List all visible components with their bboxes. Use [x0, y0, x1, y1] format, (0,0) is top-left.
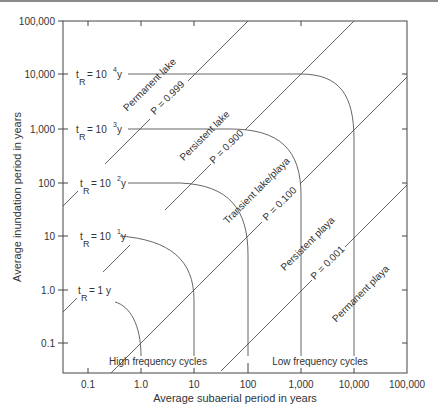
svg-text:R: R [83, 186, 90, 196]
p-label-0100: P = 0.100 [260, 184, 298, 222]
line-p-0900 [63, 21, 354, 312]
svg-text:y: y [121, 231, 126, 242]
svg-text:y: y [121, 178, 126, 189]
svg-text:R: R [79, 132, 86, 142]
low-frequency-label: Low frequency cycles [272, 356, 368, 367]
region-transient-lake-playa: Transient lake/playa [221, 155, 292, 226]
tr-label-1: t R = 1 y [78, 285, 111, 303]
x-tick-label: 100 [240, 379, 257, 390]
y-tick-label: 10,000 [24, 69, 55, 80]
svg-text:= 10: = 10 [87, 124, 107, 135]
x-tick-label: 1,000 [288, 379, 313, 390]
y-tick-label: 1,000 [30, 124, 55, 135]
svg-text:= 10: = 10 [91, 231, 111, 242]
tr-label-100: t R = 10 2 y [80, 175, 126, 196]
y-axis-title: Average inundation period in years [11, 112, 23, 282]
x-tick-label: 10,000 [339, 379, 370, 390]
svg-text:y: y [117, 124, 122, 135]
svg-text:= 10: = 10 [91, 178, 111, 189]
x-tick-label: 0.1 [81, 379, 95, 390]
line-p-0100 [111, 77, 407, 373]
x-axis-title: Average subaerial period in years [153, 392, 317, 404]
region-permanent-lake: Permanent lake [121, 56, 179, 114]
tr-label-1000: t R = 10 3 y [76, 121, 122, 142]
y-tick-label: 10 [44, 231, 56, 242]
tr-labels: t R = 10 4 y t R = 10 3 y t R = 10 2 y t… [76, 66, 126, 303]
x-tick-label: 100,000 [389, 379, 426, 390]
lake-playa-diagram: 100,000 10,000 1,000 100 10 1.0 0.1 0.1 … [0, 0, 438, 409]
region-permanent-playa: Permanent playa [330, 263, 392, 325]
svg-text:= 10: = 10 [87, 69, 107, 80]
y-tick-label: 1.0 [41, 285, 55, 296]
y-tick-label: 0.1 [41, 338, 55, 349]
p-label-0001: P = 0.001 [308, 243, 346, 281]
tr-label-10: t R = 10 1 y [80, 228, 126, 249]
tr-label-10000: t R = 10 4 y [76, 66, 122, 87]
svg-text:R: R [79, 77, 86, 87]
x-tick-label: 10 [188, 379, 200, 390]
y-tick-label: 100 [38, 178, 55, 189]
y-tick-label: 100,000 [19, 16, 56, 27]
curve-tr-10 [120, 236, 194, 356]
high-frequency-label: High frequency cycles [109, 356, 207, 367]
svg-text:y: y [117, 69, 122, 80]
svg-text:R: R [81, 293, 88, 303]
x-tick-label: 1.0 [134, 379, 148, 390]
curve-tr-1 [115, 302, 141, 356]
svg-text:= 1 y: = 1 y [89, 285, 111, 296]
svg-text:R: R [83, 239, 90, 249]
